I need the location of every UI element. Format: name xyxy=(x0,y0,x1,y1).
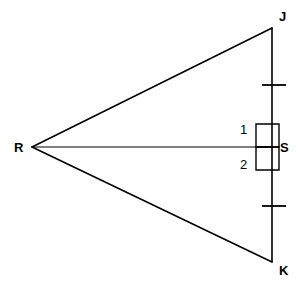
right-angle-mark-2 xyxy=(256,147,279,170)
right-angle-mark-group xyxy=(256,124,279,170)
vertex-label-J: J xyxy=(279,10,286,23)
angle-label-1: 1 xyxy=(240,123,247,136)
geometry-canvas xyxy=(0,0,298,290)
segment-RK xyxy=(32,147,272,262)
vertex-label-R: R xyxy=(14,141,23,154)
vertex-label-S: S xyxy=(280,141,289,154)
segment-group xyxy=(32,28,272,262)
segment-RJ xyxy=(32,28,272,147)
angle-label-2: 2 xyxy=(240,158,247,171)
vertex-label-K: K xyxy=(279,264,288,277)
geometry-figure: R J K S 1 2 xyxy=(0,0,298,290)
right-angle-mark-1 xyxy=(256,124,279,147)
